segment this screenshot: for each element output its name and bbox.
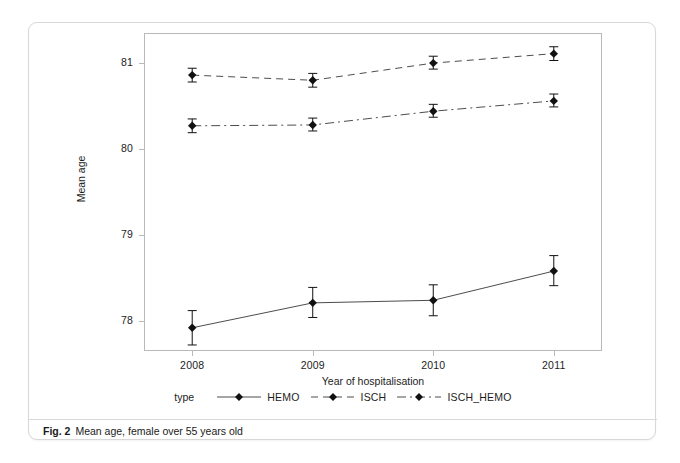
figure-card: 78798081 2008200920102011 Mean age Year … — [28, 22, 656, 440]
legend-label: ISCH_HEMO — [447, 391, 511, 403]
series-ISCH_HEMO — [188, 94, 559, 133]
legend-entry-hemo: HEMO — [217, 391, 299, 403]
legend-marker — [329, 393, 337, 401]
series-line-ISCH — [192, 54, 554, 81]
data-point-marker — [309, 121, 317, 129]
legend-key-isch — [311, 391, 355, 403]
legend-key-isch_hemo — [397, 391, 441, 403]
x-tick-label: 2011 — [524, 359, 584, 371]
chart-plot-area: 78798081 2008200920102011 Mean age Year … — [29, 23, 657, 383]
data-point-marker — [429, 107, 437, 115]
series-line-ISCH_HEMO — [192, 101, 554, 126]
data-point-marker — [188, 71, 196, 79]
y-tick-mark — [139, 235, 144, 236]
x-tick-mark — [192, 351, 193, 356]
data-point-marker — [550, 49, 558, 57]
data-point-marker — [309, 76, 317, 84]
series-line-HEMO — [192, 271, 554, 328]
y-tick-mark — [139, 63, 144, 64]
x-axis-title: Year of hospitalisation — [144, 375, 602, 387]
x-tick-mark — [554, 351, 555, 356]
legend-title: type — [174, 391, 194, 403]
y-tick-label: 79 — [87, 228, 133, 240]
chart-canvas — [144, 33, 602, 351]
x-tick-mark — [313, 351, 314, 356]
y-tick-label: 78 — [87, 314, 133, 326]
legend-marker — [415, 393, 423, 401]
data-point-marker — [550, 267, 558, 275]
figure-caption-label: Fig. 2 — [43, 425, 70, 437]
chart-legend: type HEMOISCHISCH_HEMO — [29, 391, 657, 403]
legend-label: HEMO — [267, 391, 299, 403]
x-tick-mark — [433, 351, 434, 356]
data-point-marker — [429, 296, 437, 304]
x-tick-label: 2008 — [162, 359, 222, 371]
legend-label: ISCH — [361, 391, 387, 403]
data-point-marker — [309, 299, 317, 307]
legend-entry-isch_hemo: ISCH_HEMO — [397, 391, 511, 403]
x-tick-label: 2010 — [403, 359, 463, 371]
legend-key-hemo — [217, 391, 261, 403]
x-tick-label: 2009 — [283, 359, 343, 371]
legend-marker — [235, 393, 243, 401]
figure-caption: Fig. 2Mean age, female over 55 years old — [43, 425, 643, 437]
y-tick-mark — [139, 321, 144, 322]
data-point-marker — [188, 122, 196, 130]
series-HEMO — [188, 256, 559, 345]
y-tick-label: 80 — [87, 142, 133, 154]
y-tick-mark — [139, 149, 144, 150]
data-point-marker — [429, 59, 437, 67]
data-point-marker — [550, 97, 558, 105]
y-tick-label: 81 — [87, 56, 133, 68]
legend-entry-isch: ISCH — [311, 391, 387, 403]
caption-divider — [29, 419, 657, 420]
series-ISCH — [188, 47, 559, 87]
figure-caption-text: Mean age, female over 55 years old — [75, 425, 243, 437]
y-axis-title: Mean age — [75, 119, 87, 239]
data-point-marker — [188, 324, 196, 332]
